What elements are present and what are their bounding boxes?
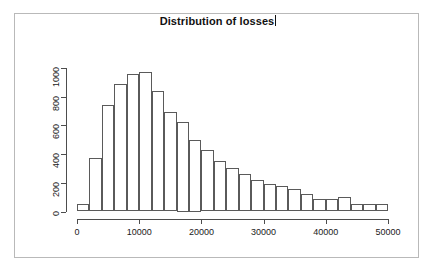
histogram-bar [102,105,114,212]
histogram-bar [164,112,176,211]
histogram-bar [301,194,313,211]
x-axis-tick-label: 0 [47,227,107,237]
histogram-bar [276,186,288,211]
y-axis-tick [61,183,66,184]
y-axis-tick [61,68,66,69]
x-axis-tick-label: 50000 [358,227,418,237]
histogram-bar [89,158,101,211]
histogram-bar [127,74,139,212]
histogram-bar [313,199,325,211]
histogram-bar [239,174,251,211]
histogram-bar [201,150,213,212]
histogram-bar [326,199,338,211]
y-axis-tick [61,212,66,213]
x-axis-line [77,219,388,220]
x-axis-tick-label: 10000 [109,227,169,237]
histogram-bar [77,204,89,211]
x-axis-tick [201,219,202,224]
plot-area: 02004006008001000 0100002000030000400005… [0,0,436,274]
y-axis-tick-label: 1000 [51,67,61,123]
y-axis-tick [61,125,66,126]
x-axis-tick [388,219,389,224]
x-axis-tick-label: 40000 [296,227,356,237]
histogram-bar [363,204,375,212]
x-axis-tick [326,219,327,224]
histogram-bar [189,140,201,212]
histogram-bar [351,204,363,212]
histogram-bar [226,168,238,211]
histogram-bar [264,184,276,211]
histogram-bar [152,91,164,212]
x-axis-tick [139,219,140,224]
histogram-bar [214,161,226,211]
histogram-bar [288,189,300,211]
x-axis-tick [264,219,265,224]
histogram-bar [376,204,388,212]
x-axis-tick-label: 20000 [171,227,231,237]
histogram-bar [114,84,126,212]
histogram-bar [177,122,189,212]
x-axis-tick [77,219,78,224]
screenshot-canvas: Distribution of losses 02004006008001000… [0,0,436,274]
y-axis-tick [61,97,66,98]
histogram-bar [338,197,350,211]
histogram-bar [251,180,263,212]
histogram-bar [139,72,151,211]
y-axis-line [66,68,67,212]
x-axis-tick-label: 30000 [234,227,294,237]
y-axis-tick [61,154,66,155]
